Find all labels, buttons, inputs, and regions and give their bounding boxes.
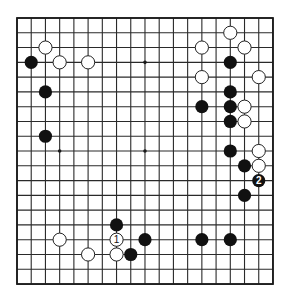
black-stone-icon <box>25 56 38 69</box>
black-stone-icon <box>224 100 237 113</box>
white-stone-icon <box>195 41 208 54</box>
white-stone-icon <box>53 56 66 69</box>
white-stone-icon <box>238 115 251 128</box>
star-point <box>143 61 147 65</box>
black-stone-icon <box>110 218 123 231</box>
go-board: 21 <box>0 0 288 301</box>
white-stone-icon <box>252 159 265 172</box>
star-point <box>58 149 62 153</box>
white-stone-icon <box>110 248 123 261</box>
white-stone-icon <box>252 144 265 157</box>
black-stone: 2 <box>252 174 265 187</box>
white-stone-icon <box>53 233 66 246</box>
white-stone-icon <box>82 56 95 69</box>
black-stone <box>195 100 208 113</box>
white-stone-icon <box>238 100 251 113</box>
black-stone <box>110 218 123 231</box>
white-stone-icon <box>82 248 95 261</box>
black-stone-icon <box>39 130 52 143</box>
white-stone <box>82 248 95 261</box>
black-stone-icon <box>224 115 237 128</box>
white-stone <box>252 159 265 172</box>
white-stone <box>53 233 66 246</box>
black-stone-icon <box>124 248 137 261</box>
white-stone <box>238 41 251 54</box>
move-number-label: 1 <box>114 234 120 245</box>
white-stone <box>110 248 123 261</box>
white-stone <box>238 100 251 113</box>
white-stone-icon <box>252 71 265 84</box>
black-stone <box>39 130 52 143</box>
white-stone-icon <box>195 71 208 84</box>
white-stone <box>195 71 208 84</box>
black-stone <box>224 233 237 246</box>
black-stone <box>224 56 237 69</box>
black-stone <box>224 85 237 98</box>
white-stone <box>195 41 208 54</box>
black-stone-icon <box>39 85 52 98</box>
black-stone <box>195 233 208 246</box>
black-stone-icon <box>195 233 208 246</box>
move-number-label: 2 <box>256 175 262 186</box>
black-stone-icon <box>238 189 251 202</box>
black-stone-icon <box>238 159 251 172</box>
white-stone-icon <box>224 26 237 39</box>
white-stone <box>252 71 265 84</box>
black-stone <box>224 144 237 157</box>
star-point <box>143 149 147 153</box>
black-stone <box>238 189 251 202</box>
black-stone <box>124 248 137 261</box>
white-stone: 1 <box>110 233 123 246</box>
white-stone <box>224 26 237 39</box>
white-stone-icon <box>238 41 251 54</box>
white-stone <box>252 144 265 157</box>
black-stone <box>39 85 52 98</box>
white-stone <box>39 41 52 54</box>
black-stone-icon <box>224 85 237 98</box>
white-stone <box>238 115 251 128</box>
white-stone <box>53 56 66 69</box>
black-stone-icon <box>224 56 237 69</box>
black-stone-icon <box>224 233 237 246</box>
white-stone-icon <box>39 41 52 54</box>
black-stone <box>224 100 237 113</box>
black-stone-icon <box>224 144 237 157</box>
black-stone <box>224 115 237 128</box>
black-stone <box>138 233 151 246</box>
black-stone <box>238 159 251 172</box>
white-stone <box>82 56 95 69</box>
black-stone <box>25 56 38 69</box>
black-stone-icon <box>195 100 208 113</box>
black-stone-icon <box>138 233 151 246</box>
